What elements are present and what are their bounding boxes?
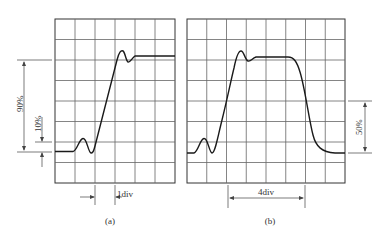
panel-a-grid (55, 19, 175, 183)
label-1-div: 1div (117, 189, 134, 199)
annotation-1-div (80, 185, 122, 205)
label-4-div: 4div (258, 187, 275, 197)
label-50-percent: 50% (354, 119, 364, 135)
label-90-percent: 90% (15, 95, 25, 112)
caption-b: (b) (265, 216, 276, 226)
panel-b-grid (187, 19, 345, 183)
caption-a: (a) (105, 216, 115, 226)
label-10-percent: 10% (33, 115, 43, 132)
oscilloscope-figure: 90% 10% 1div (a) (0, 0, 383, 243)
panel-a: 90% 10% 1div (a) (15, 19, 175, 226)
panel-b: 50% 4div (b) (187, 19, 372, 226)
